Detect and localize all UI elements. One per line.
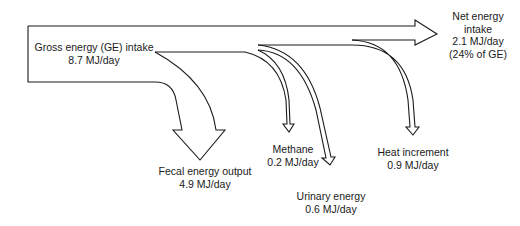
net-energy-share: (24% of GE) bbox=[442, 48, 514, 61]
net-energy-value: 2.1 MJ/day bbox=[442, 35, 514, 48]
urinary-energy-value: 0.6 MJ/day bbox=[288, 203, 374, 216]
methane-arrow bbox=[245, 50, 294, 132]
net-energy-name-line2: intake bbox=[442, 23, 514, 36]
methane-name: Methane bbox=[258, 143, 328, 156]
heat-increment-label: Heat increment 0.9 MJ/day bbox=[370, 146, 456, 171]
fecal-energy-label: Fecal energy output 4.9 MJ/day bbox=[150, 165, 260, 190]
heat-increment-arrow bbox=[352, 40, 419, 135]
methane-value: 0.2 MJ/day bbox=[258, 156, 328, 169]
gross-energy-name: Gross energy (GE) intake bbox=[32, 41, 156, 54]
net-energy-name-line1: Net energy bbox=[442, 10, 514, 23]
fecal-energy-value: 4.9 MJ/day bbox=[150, 178, 260, 191]
heat-increment-value: 0.9 MJ/day bbox=[370, 159, 456, 172]
urinary-energy-name: Urinary energy bbox=[288, 190, 374, 203]
gross-energy-value: 8.7 MJ/day bbox=[32, 54, 156, 67]
net-energy-label: Net energy intake 2.1 MJ/day (24% of GE) bbox=[442, 10, 514, 60]
urinary-energy-label: Urinary energy 0.6 MJ/day bbox=[288, 190, 374, 215]
heat-increment-name: Heat increment bbox=[370, 146, 456, 159]
gross-energy-label: Gross energy (GE) intake 8.7 MJ/day bbox=[32, 41, 156, 66]
fecal-energy-name: Fecal energy output bbox=[150, 165, 260, 178]
methane-label: Methane 0.2 MJ/day bbox=[258, 143, 328, 168]
